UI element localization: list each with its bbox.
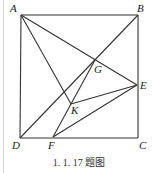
segment-DA <box>20 15 21 138</box>
label-E: E <box>139 79 147 91</box>
label-G: G <box>94 63 102 75</box>
segment-AK <box>21 15 71 104</box>
geometry-figure: A B C D E F G K 1. 1. 17 题图 <box>0 0 158 173</box>
label-C: C <box>139 139 147 151</box>
label-A: A <box>9 2 17 14</box>
label-K: K <box>70 104 79 116</box>
label-D: D <box>11 139 20 151</box>
segment-BD <box>20 15 138 138</box>
figure-segments <box>20 15 138 138</box>
segment-KE <box>71 85 137 104</box>
segment-AE <box>21 15 137 85</box>
label-F: F <box>47 139 55 151</box>
figure-caption: 1. 1. 17 题图 <box>53 157 106 168</box>
segment-FE <box>53 85 137 137</box>
label-B: B <box>137 2 144 14</box>
